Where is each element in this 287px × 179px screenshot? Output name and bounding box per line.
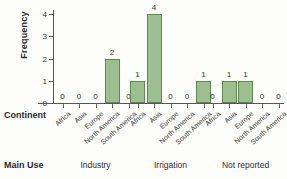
- x-axis-line: [38, 103, 284, 104]
- y-tick-label-2: 2: [36, 54, 47, 63]
- bar-value-label: 0: [276, 92, 280, 101]
- group-label-industry: Industry: [80, 160, 110, 170]
- bar-value-label: 0: [260, 92, 264, 101]
- y-tick-mark-1: [49, 81, 53, 82]
- x-tick-mark: [187, 104, 188, 108]
- y-axis-line: [53, 10, 54, 103]
- group-label-not-reported: Not reported: [222, 160, 269, 170]
- group-label-irrigation: Irrigation: [154, 160, 187, 170]
- x-tick-mark: [154, 104, 155, 108]
- x-tick-mark: [96, 104, 97, 108]
- bar-value-label: 1: [227, 70, 231, 79]
- x-tick-mark: [279, 104, 280, 108]
- x-tick-mark: [79, 104, 80, 108]
- x-tick-mark: [129, 104, 130, 108]
- bar: [196, 81, 211, 103]
- bar-value-label: 1: [135, 70, 139, 79]
- bar-value-label: 4: [152, 3, 156, 12]
- y-tick-label-3: 3: [36, 32, 47, 41]
- main-use-row-header: Main Use: [4, 160, 44, 170]
- continent-row-header: Continent: [4, 110, 46, 120]
- x-tick-mark: [112, 104, 113, 108]
- x-tick-mark: [204, 104, 205, 108]
- bar: [238, 81, 253, 103]
- x-tick-mark: [171, 104, 172, 108]
- bar-value-label: 0: [60, 92, 64, 101]
- y-tick-label-4: 4: [36, 10, 47, 19]
- bar-value-label: 0: [77, 92, 81, 101]
- bar-value-label: 2: [110, 48, 114, 57]
- bar-value-label: 1: [201, 70, 205, 79]
- y-tick-mark-3: [49, 36, 53, 37]
- bar: [222, 81, 237, 103]
- x-tick-mark: [262, 104, 263, 108]
- bar-value-label: 0: [93, 92, 97, 101]
- x-tick-mark: [213, 104, 214, 108]
- bar-chart: Frequency 01234 0Africa0Asia0Europe2Nort…: [0, 0, 287, 179]
- bar: [105, 59, 120, 104]
- y-axis-label: Frequency: [19, 0, 29, 71]
- bar-value-label: 1: [243, 70, 247, 79]
- bar-value-label: 0: [185, 92, 189, 101]
- y-tick-label-1: 1: [36, 76, 47, 85]
- x-tick-mark: [229, 104, 230, 108]
- x-tick-mark: [138, 104, 139, 108]
- bar: [147, 14, 162, 103]
- y-tick-mark-2: [49, 59, 53, 60]
- x-tick-mark: [63, 104, 64, 108]
- bar-value-label: 0: [210, 92, 214, 101]
- bar: [130, 81, 145, 103]
- x-category-label: Africa: [53, 110, 71, 127]
- y-tick-mark-4: [49, 14, 53, 15]
- x-tick-mark: [246, 104, 247, 108]
- bar-value-label: 0: [168, 92, 172, 101]
